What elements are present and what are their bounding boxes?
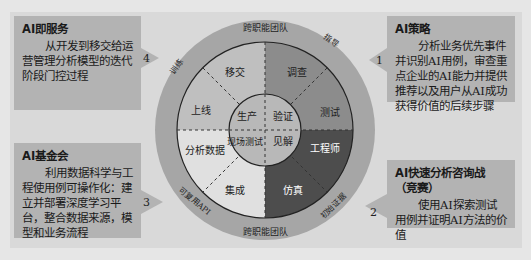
segment-transfer: 移交 — [225, 66, 245, 78]
box-title: AI快速分析咨询战（竞赛） — [395, 166, 507, 196]
step-number-3: 3 — [143, 196, 150, 209]
box-ai-as-service: AI即服务 从开发到移交给运营管理分析模型的迭代阶段门控过程 — [14, 16, 141, 110]
segment-go-live: 上线 — [191, 104, 211, 116]
segment-review: 调查 — [287, 66, 307, 78]
box-body: 分析业务优先事件并识别AI用例，审查重点企业的AI能力并提供推荐以及用户从AI成… — [395, 39, 507, 114]
ring-label-bottom: 跨职能团队 — [243, 226, 288, 237]
step-number-1: 1 — [376, 54, 383, 67]
segment-analyze-data: 分析数据 — [185, 144, 225, 156]
segment-engineer: 工程师 — [310, 142, 340, 154]
box-body: 利用数据科学与工程使用例可操作化：建立并部署深度学习平台，整合数据来源，模型和业… — [22, 166, 133, 241]
box-ai-challenge: AI快速分析咨询战（竞赛） 使用AI探索测试用例并证明AI方法的价值 — [387, 160, 515, 228]
box-body: 从开发到移交给运营管理分析模型的迭代阶段门控过程 — [22, 39, 133, 84]
box-title: AI即服务 — [22, 22, 133, 37]
box-title: AI策略 — [395, 22, 507, 37]
ring-label-top: 跨职能团队 — [243, 22, 288, 33]
segment-simulate: 仿真 — [283, 184, 303, 196]
inner-field-test: 现场测试 — [227, 136, 263, 147]
lifecycle-wheel: 跨职能团队 跨职能团队 训练 指导 可复用API 初始证据 移交 调查 上线 测… — [155, 18, 375, 242]
box-title: AI基金会 — [22, 149, 133, 164]
segment-integrate: 集成 — [225, 184, 245, 196]
box-ai-strategy: AI策略 分析业务优先事件并识别AI用例，审查重点企业的AI能力并提供推荐以及用… — [387, 16, 515, 102]
inner-production: 生产 — [237, 110, 257, 122]
segment-test: 测试 — [320, 106, 340, 118]
inner-validation: 验证 — [273, 110, 293, 122]
inner-insight: 见解 — [273, 135, 293, 147]
box-ai-foundation: AI基金会 利用数据科学与工程使用例可操作化：建立并部署深度学习平台，整合数据来… — [14, 143, 141, 238]
box-body: 使用AI探索测试用例并证明AI方法的价值 — [395, 198, 507, 243]
step-number-4: 4 — [143, 52, 150, 65]
